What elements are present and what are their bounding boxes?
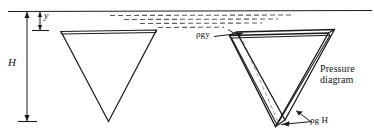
submerged-triangular-plate: [61, 30, 157, 122]
pressure-label-rho-g-y: ρgy: [196, 30, 210, 40]
pressure-prism: [230, 30, 335, 127]
depth-label-H: H: [8, 57, 16, 69]
pressure-diagram-caption-line2: diagram: [320, 75, 355, 86]
pressure-label-rho-g-H: ρg H: [310, 116, 328, 126]
pressure-diagram-caption: Pressure diagram: [320, 64, 355, 86]
pressure-arrow-top: [214, 30, 243, 38]
figure-container: H y ρgy ρg H Pressure diagram: [0, 0, 374, 139]
depth-label-y: y: [44, 11, 49, 22]
depth-dimension-H: [18, 12, 37, 122]
free-surface-line: [8, 11, 372, 12]
water-hatching: [110, 15, 292, 28]
